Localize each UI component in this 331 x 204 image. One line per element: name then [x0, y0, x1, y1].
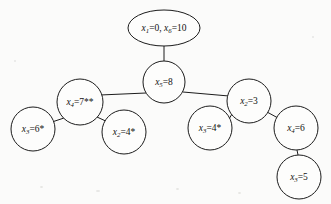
- tree-node-n4b[interactable]: x4=6: [274, 106, 318, 150]
- node-label-n4b: x4=6: [286, 123, 305, 134]
- node-layer: x1=0, x6=10x5=8x4=7**x3=6*x2=4*x2=3x3=4*…: [11, 10, 321, 199]
- tree-node-n3a[interactable]: x3=6*: [11, 107, 55, 151]
- node-label-n2b: x2=3: [239, 96, 258, 107]
- node-label-n4a: x4=7**: [65, 97, 93, 108]
- tree-node-n5[interactable]: x5=8: [143, 61, 185, 103]
- tree-node-n2b[interactable]: x2=3: [227, 79, 271, 123]
- edge-n5-n4a: [100, 93, 146, 95]
- tree-node-n3c[interactable]: x3=5: [277, 155, 321, 199]
- node-label-n2a: x2=4*: [112, 127, 136, 138]
- edge-n5-n2b: [183, 92, 229, 96]
- tree-node-root[interactable]: x1=0, x6=10: [128, 10, 200, 46]
- tree-node-n2a[interactable]: x2=4*: [102, 110, 146, 154]
- tree-node-n3b[interactable]: x3=4*: [188, 106, 232, 150]
- tree-canvas: x1=0, x6=10x5=8x4=7**x3=6*x2=4*x2=3x3=4*…: [0, 0, 331, 204]
- node-label-n5: x5=8: [154, 77, 173, 88]
- tree-node-n4a[interactable]: x4=7**: [57, 79, 103, 125]
- search-tree-figure: x1=0, x6=10x5=8x4=7**x3=6*x2=4*x2=3x3=4*…: [0, 0, 331, 204]
- node-label-n3c: x3=5: [289, 172, 308, 183]
- edge-n4b-n3c: [297, 150, 298, 155]
- node-label-n3b: x3=4*: [198, 123, 222, 134]
- node-label-n3a: x3=6*: [21, 124, 45, 135]
